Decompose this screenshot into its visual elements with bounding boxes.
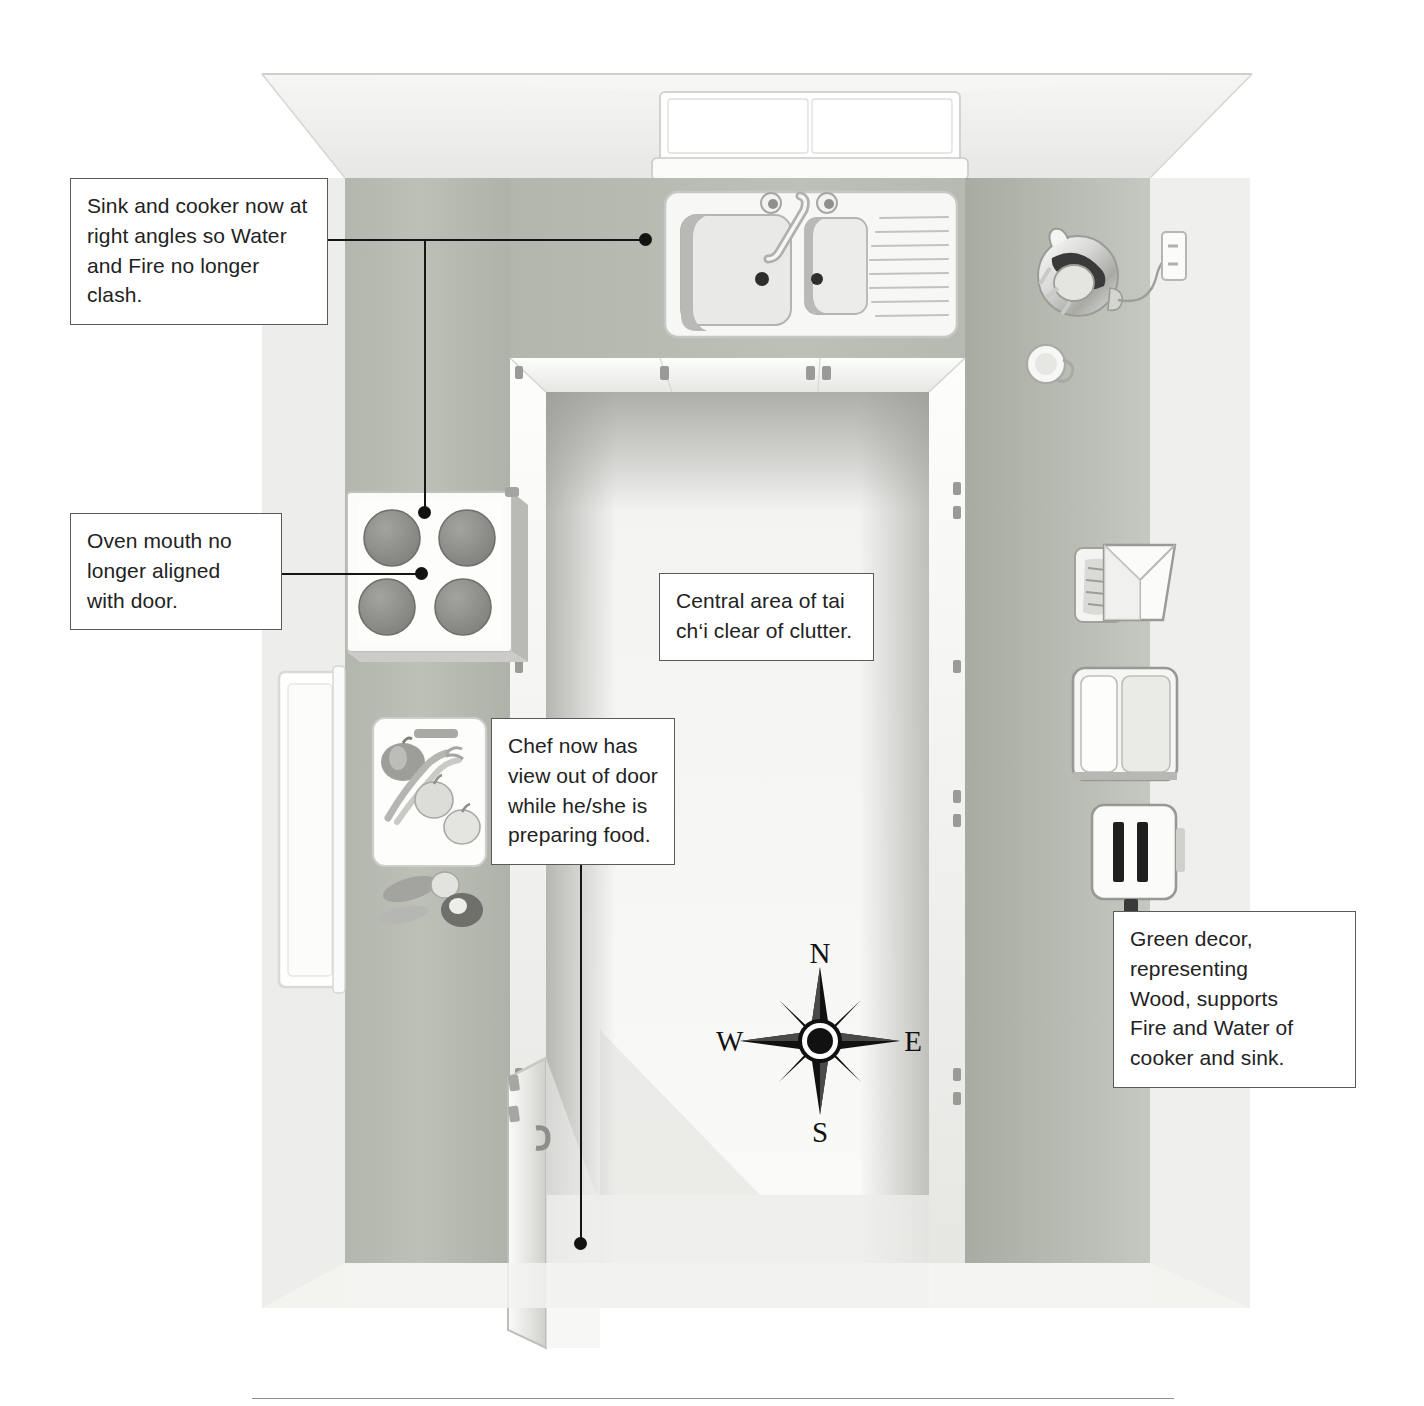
compass-label-south: S xyxy=(812,1118,828,1147)
callout-central-area: Central area of tai ch‘i clear of clutte… xyxy=(659,573,874,661)
figure-canvas: N E S W Sink and cooker now at right ang… xyxy=(0,0,1424,1406)
callout-oven-mouth: Oven mouth no longer aligned with door. xyxy=(70,513,282,630)
toaster xyxy=(1092,805,1185,913)
compass-rose: N E S W xyxy=(722,943,918,1139)
bread-bin xyxy=(1073,668,1177,780)
callout-sink-cooker: Sink and cooker now at right angles so W… xyxy=(70,178,328,325)
leader-dot-door xyxy=(574,1237,587,1250)
bottom-divider xyxy=(252,1398,1174,1399)
leader-dot-hob-upper xyxy=(418,506,431,519)
compass-star-icon xyxy=(722,943,918,1139)
leader-line-chef xyxy=(580,862,582,1244)
sink-unit xyxy=(665,192,957,337)
callout-green-decor: Green decor, representing Wood, supports… xyxy=(1113,911,1356,1088)
callout-chef-view: Chef now has view out of door while he/s… xyxy=(491,718,675,865)
left-wall-group xyxy=(262,178,345,1308)
back-window-group xyxy=(652,92,968,180)
compass-label-east: E xyxy=(904,1027,922,1056)
wall-socket xyxy=(1162,232,1186,280)
leader-line-oven xyxy=(282,573,422,575)
compass-label-west: W xyxy=(716,1027,743,1056)
leader-line-sink xyxy=(328,239,648,241)
leader-dot-hob-lower xyxy=(415,567,428,580)
side-window-group xyxy=(279,666,345,993)
leader-dot-sink xyxy=(639,233,652,246)
mixer-scales xyxy=(1075,545,1175,622)
compass-label-north: N xyxy=(810,939,831,968)
leader-line-sink-branch xyxy=(424,239,426,513)
